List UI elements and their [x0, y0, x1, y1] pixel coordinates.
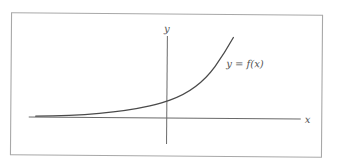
curve-label: y = f(x) [225, 58, 264, 69]
y-axis [167, 36, 168, 144]
graph-canvas: y x y = f(x) [0, 0, 343, 165]
function-graph-figure: y x y = f(x) [0, 0, 343, 165]
y-axis-label: y [163, 23, 170, 34]
function-curve [36, 36, 234, 118]
x-axis [29, 117, 301, 119]
x-axis-label: x [305, 114, 311, 125]
